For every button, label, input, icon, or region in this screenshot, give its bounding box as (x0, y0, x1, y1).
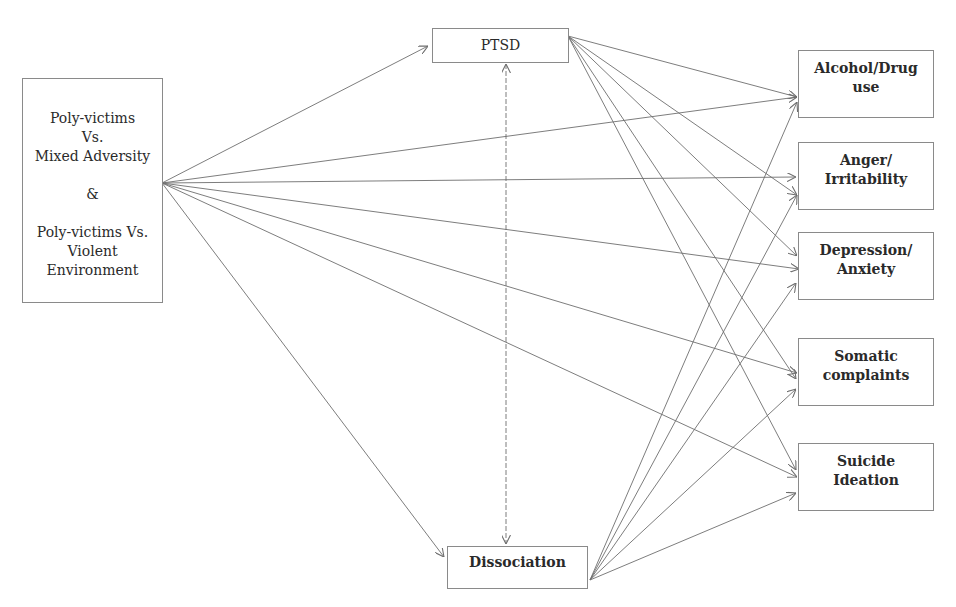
edge-predictor-ptsd (162, 46, 428, 183)
edge-dissociation-suicide (590, 493, 796, 580)
edge-predictor-alcohol (162, 97, 797, 183)
edge-ptsd-depression (568, 36, 797, 256)
predictor-box: Poly-victims Vs. Mixed Adversity & Poly-… (22, 78, 163, 303)
outcome-label: Irritability (799, 170, 933, 189)
outcome-box-depression: Depression/ Anxiety (798, 232, 934, 300)
outcome-box-alcohol: Alcohol/Drug use (798, 50, 934, 118)
predictor-line: Poly-victims (23, 109, 162, 128)
outcome-label: Alcohol/Drug (799, 59, 933, 78)
predictor-line: Poly-victims Vs. (23, 223, 162, 242)
outcome-label: Anxiety (799, 260, 933, 279)
edge-dissociation-somatic (590, 389, 796, 580)
predictor-line (23, 166, 162, 185)
outcome-label: Anger/ (799, 151, 933, 170)
edge-dissociation-alcohol (590, 102, 797, 580)
predictor-line: Environment (23, 261, 162, 280)
outcome-label: Depression/ (799, 241, 933, 260)
predictor-line: Vs. (23, 128, 162, 147)
edge-predictor-suicide (162, 183, 797, 477)
outcome-label: Somatic (799, 347, 933, 366)
ptsd-label: PTSD (481, 37, 521, 53)
predictor-line: & (23, 185, 162, 204)
edge-predictor-anger (162, 177, 796, 183)
edge-predictor-somatic (162, 183, 797, 373)
edge-predictor-depression (162, 183, 799, 269)
outcome-box-anger: Anger/ Irritability (798, 142, 934, 210)
outcome-label: Ideation (799, 471, 933, 490)
edge-dissociation-depression (590, 283, 796, 580)
outcome-label: use (799, 78, 933, 97)
edge-ptsd-suicide (568, 36, 796, 470)
outcome-box-suicide: Suicide Ideation (798, 443, 934, 511)
edge-predictor-dissociation (162, 183, 444, 557)
predictor-line: Mixed Adversity (23, 147, 162, 166)
outcome-label: complaints (799, 366, 933, 385)
edge-ptsd-anger (568, 36, 797, 195)
dissociation-label: Dissociation (469, 554, 566, 570)
outcome-label: Suicide (799, 452, 933, 471)
dissociation-box: Dissociation (447, 546, 588, 589)
edge-dissociation-anger (590, 195, 797, 580)
predictor-line (23, 204, 162, 223)
outcome-box-somatic: Somatic complaints (798, 338, 934, 406)
ptsd-box: PTSD (432, 28, 569, 63)
predictor-line: Violent (23, 242, 162, 261)
